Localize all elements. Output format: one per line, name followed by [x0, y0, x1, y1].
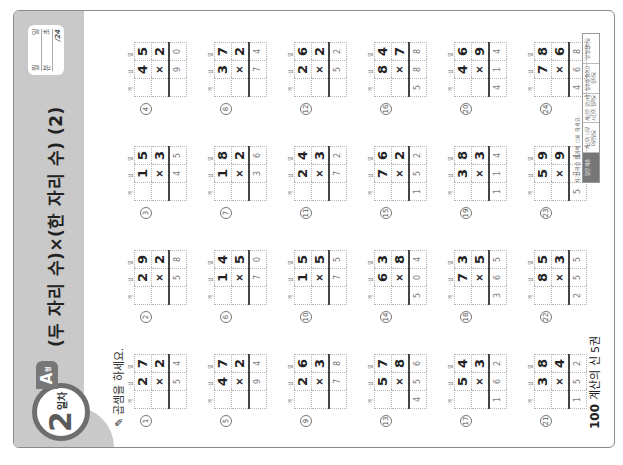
- answer-cell[interactable]: 2: [329, 147, 347, 165]
- digit-cell: 3: [375, 251, 392, 269]
- answer-cell[interactable]: 6: [489, 269, 507, 287]
- answer-cell[interactable]: [249, 183, 267, 201]
- answer-cell[interactable]: 0: [249, 251, 267, 269]
- answer-cell[interactable]: 9: [169, 61, 187, 79]
- problem-item: 22백십일85×3255: [526, 233, 596, 323]
- answer-cell[interactable]: 5: [569, 269, 587, 287]
- answer-cell[interactable]: 0: [409, 269, 427, 287]
- answer-cell[interactable]: [329, 391, 347, 409]
- answer-cell[interactable]: [249, 391, 267, 409]
- problem-number: 10: [300, 311, 312, 323]
- answer-cell[interactable]: 1: [489, 61, 507, 79]
- digit-cell: 5: [535, 251, 552, 269]
- digit-cell: 7: [215, 43, 232, 61]
- problem-item: 3백십일15×345: [126, 129, 196, 219]
- answer-cell[interactable]: 1: [489, 391, 507, 409]
- problem-number: 21: [540, 415, 552, 427]
- answer-cell[interactable]: [329, 287, 347, 305]
- problem-number: 13: [380, 415, 392, 427]
- answer-cell[interactable]: 4: [489, 147, 507, 165]
- digit-cell: [535, 391, 552, 409]
- place-value-headers: 백십일: [206, 358, 213, 409]
- digit-cell: 2: [152, 251, 170, 269]
- answer-cell[interactable]: 8: [409, 61, 427, 79]
- answer-cell[interactable]: [329, 183, 347, 201]
- answer-cell[interactable]: 4: [409, 391, 427, 409]
- answer-cell[interactable]: 5: [169, 269, 187, 287]
- answer-cell[interactable]: 1: [489, 183, 507, 201]
- multiplication-box: 26×252: [294, 42, 347, 97]
- answer-cell[interactable]: 4: [249, 355, 267, 373]
- answer-cell[interactable]: 4: [249, 43, 267, 61]
- digit-cell: 7: [375, 355, 392, 373]
- place-value-label: 백: [286, 288, 293, 305]
- answer-cell[interactable]: 8: [329, 355, 347, 373]
- answer-cell[interactable]: 6: [409, 355, 427, 373]
- answer-cell[interactable]: [249, 79, 267, 97]
- digit-cell: 5: [455, 373, 472, 391]
- multiply-sign: ×: [392, 165, 410, 183]
- answer-cell[interactable]: 5: [409, 79, 427, 97]
- answer-cell[interactable]: 5: [409, 373, 427, 391]
- answer-cell[interactable]: 7: [329, 269, 347, 287]
- answer-cell[interactable]: 5: [489, 251, 507, 269]
- answer-cell[interactable]: 5: [569, 251, 587, 269]
- answer-cell[interactable]: 7: [249, 269, 267, 287]
- answer-cell[interactable]: 4: [489, 79, 507, 97]
- answer-cell[interactable]: 1: [569, 391, 587, 409]
- answer-cell[interactable]: 4: [169, 165, 187, 183]
- answer-cell[interactable]: 2: [569, 287, 587, 305]
- digit-cell: [535, 183, 552, 201]
- answer-cell[interactable]: 5: [329, 61, 347, 79]
- self-check-option[interactable]: 계산이 너무 어려워요: [583, 123, 599, 153]
- answer-cell[interactable]: [169, 391, 187, 409]
- digit-cell: 5: [232, 251, 250, 269]
- answer-cell[interactable]: 2: [329, 43, 347, 61]
- answer-cell[interactable]: 5: [329, 251, 347, 269]
- self-check-option[interactable]: 잘 알겠어요: [583, 34, 599, 64]
- answer-cell[interactable]: 6: [489, 373, 507, 391]
- answer-cell[interactable]: 5: [169, 147, 187, 165]
- answer-cell[interactable]: 2: [409, 147, 427, 165]
- answer-cell[interactable]: 3: [249, 165, 267, 183]
- answer-cell[interactable]: 4: [169, 355, 187, 373]
- answer-cell[interactable]: 5: [569, 373, 587, 391]
- self-check-option[interactable]: 실수를 줄이고 싶어요: [583, 64, 599, 94]
- answer-cell[interactable]: 4: [489, 43, 507, 61]
- answer-cell[interactable]: 9: [249, 373, 267, 391]
- answer-cell[interactable]: 7: [329, 373, 347, 391]
- answer-cell[interactable]: 0: [169, 43, 187, 61]
- day-label: 일: [31, 29, 41, 35]
- place-value-headers: 백십일: [526, 150, 533, 201]
- answer-cell[interactable]: 4: [409, 251, 427, 269]
- answer-cell[interactable]: 6: [249, 147, 267, 165]
- answer-cell[interactable]: 5: [169, 373, 187, 391]
- answer-cell[interactable]: [169, 79, 187, 97]
- self-check-option[interactable]: 계산은 맞는데 시간이 걸려요: [583, 94, 599, 124]
- digit-cell: [472, 391, 490, 409]
- answer-cell[interactable]: 5: [569, 183, 587, 201]
- answer-cell[interactable]: 2: [489, 355, 507, 373]
- digit-cell: [232, 391, 250, 409]
- answer-cell[interactable]: 7: [249, 61, 267, 79]
- answer-cell[interactable]: 1: [409, 183, 427, 201]
- answer-cell[interactable]: [169, 287, 187, 305]
- answer-cell[interactable]: 8: [169, 251, 187, 269]
- answer-cell[interactable]: 7: [329, 165, 347, 183]
- place-value-label: 일: [286, 150, 293, 167]
- answer-cell[interactable]: 2: [569, 355, 587, 373]
- answer-cell[interactable]: 1: [489, 165, 507, 183]
- answer-cell[interactable]: 3: [489, 287, 507, 305]
- multiply-sign: ×: [152, 61, 170, 79]
- digit-cell: [472, 79, 490, 97]
- answer-cell[interactable]: 8: [409, 43, 427, 61]
- answer-cell[interactable]: [329, 79, 347, 97]
- answer-cell[interactable]: 5: [409, 165, 427, 183]
- digit-cell: [392, 287, 410, 305]
- answer-cell[interactable]: [249, 287, 267, 305]
- answer-cell[interactable]: [169, 183, 187, 201]
- digit-cell: 2: [295, 61, 312, 79]
- problem-number: 15: [380, 207, 392, 219]
- answer-cell[interactable]: 5: [409, 287, 427, 305]
- digit-cell: [552, 287, 570, 305]
